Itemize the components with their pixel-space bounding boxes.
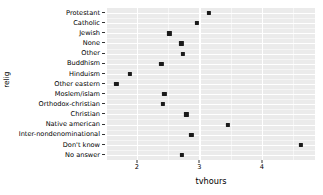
gridline-horizontal	[107, 23, 315, 24]
y-axis-tick-label: None	[83, 38, 105, 48]
y-axis-tick-label: Christian	[71, 109, 105, 119]
gridline-horizontal-minor	[107, 18, 315, 19]
y-axis-tick-mark	[102, 93, 105, 94]
y-axis-tick-text: Other eastern	[54, 81, 100, 88]
data-point	[189, 133, 193, 137]
data-point	[159, 62, 163, 66]
y-axis-tick-text: Native american	[46, 121, 100, 128]
gridline-horizontal-minor	[107, 28, 315, 29]
data-point	[114, 82, 118, 86]
y-axis-tick-mark	[102, 53, 105, 54]
y-axis-tick-label: Other	[81, 49, 105, 59]
gridline-vertical	[262, 8, 263, 160]
gridline-vertical	[199, 8, 200, 160]
y-axis-tick-text: Other	[81, 50, 100, 57]
gridline-horizontal	[107, 94, 315, 95]
gridline-horizontal-minor	[107, 38, 315, 39]
y-axis-title: relig	[0, 0, 14, 160]
y-axis-tick-text: Hinduism	[69, 71, 100, 78]
gridline-horizontal	[107, 155, 315, 156]
gridline-horizontal	[107, 33, 315, 34]
y-axis-tick-text: Orthodox-christian	[39, 101, 100, 108]
data-point	[180, 153, 184, 157]
data-point	[195, 21, 199, 25]
y-axis-tick-mark	[102, 63, 105, 64]
gridline-horizontal	[107, 13, 315, 14]
gridline-horizontal-minor	[107, 49, 315, 50]
data-point	[179, 41, 183, 45]
x-axis-tick-labels: 234	[107, 160, 315, 174]
data-point	[161, 102, 165, 106]
x-axis-tick-text: 4	[260, 164, 264, 171]
gridline-horizontal-minor	[107, 89, 315, 90]
y-axis-tick-mark	[102, 154, 105, 155]
y-axis-tick-mark	[102, 42, 105, 43]
data-point	[128, 72, 132, 76]
y-axis-tick-label: Moslem/islam	[55, 89, 105, 99]
y-axis-tick-mark	[102, 144, 105, 145]
data-point	[167, 31, 171, 35]
data-point	[299, 143, 303, 147]
gridline-horizontal-minor	[107, 79, 315, 80]
gridline-horizontal-minor	[107, 119, 315, 120]
gridline-horizontal	[107, 64, 315, 65]
x-axis-title: tvhours	[107, 177, 315, 185]
gridline-horizontal-minor	[107, 150, 315, 151]
y-axis-tick-text: Catholic	[73, 20, 100, 27]
plot-panel	[107, 8, 315, 160]
y-axis-title-text: relig	[3, 72, 10, 88]
data-point	[180, 52, 184, 56]
y-axis-tick-text: Jewish	[79, 30, 100, 37]
y-axis-tick-label: Hinduism	[69, 69, 105, 79]
gridline-horizontal	[107, 84, 315, 85]
y-axis-tick-mark	[102, 113, 105, 114]
gridline-vertical-minor	[293, 8, 294, 160]
gridline-horizontal	[107, 43, 315, 44]
y-axis-tick-mark	[102, 83, 105, 84]
y-axis-tick-mark	[102, 22, 105, 23]
y-axis-tick-text: Protestant	[66, 10, 100, 17]
gridline-horizontal	[107, 54, 315, 55]
y-axis-tick-mark	[102, 73, 105, 74]
gridline-horizontal-minor	[107, 99, 315, 100]
y-axis-tick-label: Don't know	[63, 140, 105, 150]
gridline-horizontal	[107, 135, 315, 136]
y-axis-tick-label: Catholic	[73, 18, 105, 28]
chart-container: relig ProtestantCatholicJewishNoneOtherB…	[0, 0, 323, 195]
gridline-horizontal	[107, 125, 315, 126]
y-axis-tick-text: Buddhism	[67, 60, 100, 67]
x-axis-tick-text: 3	[197, 164, 201, 171]
data-point	[207, 11, 211, 15]
y-axis-tick-label: Other eastern	[54, 79, 105, 89]
x-axis-tick-text: 2	[135, 164, 139, 171]
y-axis-tick-text: No answer	[65, 152, 100, 159]
y-axis-tick-label: Inter-nondenominational	[19, 130, 105, 140]
y-axis-tick-text: None	[83, 40, 100, 47]
gridline-horizontal	[107, 114, 315, 115]
gridline-horizontal	[107, 104, 315, 105]
y-axis-tick-text: Don't know	[63, 142, 100, 149]
y-axis-tick-label: Jewish	[79, 28, 105, 38]
data-point	[162, 92, 166, 96]
gridline-vertical	[137, 8, 138, 160]
gridline-horizontal	[107, 74, 315, 75]
y-axis-tick-mark	[102, 103, 105, 104]
y-axis-tick-label: Orthodox-christian	[39, 99, 105, 109]
y-axis-tick-text: Moslem/islam	[55, 91, 100, 98]
gridline-horizontal-minor	[107, 69, 315, 70]
y-axis-tick-label: Protestant	[66, 8, 105, 18]
y-axis-tick-text: Inter-nondenominational	[19, 131, 100, 138]
y-axis-tick-mark	[102, 32, 105, 33]
gridline-horizontal-minor	[107, 59, 315, 60]
gridline-horizontal-minor	[107, 130, 315, 131]
y-axis-tick-mark	[102, 134, 105, 135]
gridline-horizontal-minor	[107, 109, 315, 110]
y-axis-tick-text: Christian	[71, 111, 100, 118]
y-axis-tick-mark	[102, 12, 105, 13]
data-point	[184, 112, 188, 116]
gridline-horizontal-minor	[107, 140, 315, 141]
gridline-vertical-minor	[231, 8, 232, 160]
y-axis-tick-label: Buddhism	[67, 59, 105, 69]
y-axis-tick-labels: ProtestantCatholicJewishNoneOtherBuddhis…	[13, 8, 105, 160]
y-axis-tick-label: No answer	[65, 150, 105, 160]
